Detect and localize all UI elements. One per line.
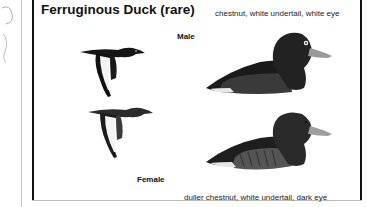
male-flying-duck-illustration — [78, 44, 148, 100]
female-flying-duck-illustration — [86, 104, 156, 160]
adjacent-page-illustration — [0, 0, 22, 207]
female-description: duller chestnut, white undertail, dark e… — [184, 193, 327, 202]
male-label: Male — [177, 32, 195, 41]
field-guide-page: Ferruginous Duck (rare) chestnut, white … — [0, 0, 367, 207]
female-label: Female — [137, 175, 165, 184]
male-description: chestnut, white undertail, white eye — [215, 9, 340, 18]
plate-title: Ferruginous Duck (rare) — [41, 2, 195, 17]
male-swimming-duck-illustration — [200, 30, 335, 98]
plate-border-right — [360, 0, 362, 201]
page-gutter — [21, 0, 22, 207]
plate-border-left — [32, 0, 34, 201]
female-swimming-duck-illustration — [200, 110, 335, 172]
